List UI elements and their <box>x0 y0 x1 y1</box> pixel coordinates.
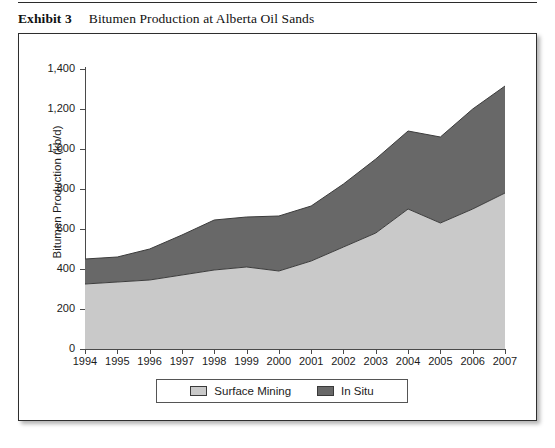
y-tick-label: 1,000 <box>27 143 75 154</box>
x-tick-mark <box>505 350 506 354</box>
stacked-area-chart <box>85 69 505 349</box>
exhibit-title: Bitumen Production at Alberta Oil Sands <box>89 11 315 27</box>
y-tick-label: 200 <box>27 303 75 314</box>
y-tick-label: 1,400 <box>27 63 75 74</box>
x-tick-mark <box>247 350 248 354</box>
x-tick-mark <box>408 350 409 354</box>
y-tick-label: 400 <box>27 263 75 274</box>
legend-swatch-surface-mining <box>190 386 207 396</box>
legend-item-in-situ: In Situ <box>317 385 374 397</box>
exhibit-figure: Exhibit 3 Bitumen Production at Alberta … <box>0 0 555 448</box>
y-tick-label: 800 <box>27 183 75 194</box>
legend-label-in-situ: In Situ <box>341 385 374 397</box>
x-tick-label: 2007 <box>485 355 525 367</box>
caption-top-rule <box>18 2 537 3</box>
chart-legend: Surface Mining In Situ <box>156 379 408 403</box>
y-tick-label: 600 <box>27 223 75 234</box>
x-tick-mark <box>117 350 118 354</box>
plot-area <box>85 69 505 349</box>
x-tick-mark <box>85 350 86 354</box>
exhibit-caption: Exhibit 3 Bitumen Production at Alberta … <box>18 8 537 30</box>
y-tick-label: 0 <box>27 343 75 354</box>
x-tick-mark <box>343 350 344 354</box>
x-tick-mark <box>150 350 151 354</box>
legend-label-surface-mining: Surface Mining <box>214 385 291 397</box>
x-axis-line <box>85 349 506 350</box>
y-tick-label: 1,200 <box>27 103 75 114</box>
x-tick-mark <box>376 350 377 354</box>
chart-frame: Bitumen Production (kb/d) 02004006008001… <box>18 33 537 421</box>
x-tick-mark <box>311 350 312 354</box>
x-tick-mark <box>214 350 215 354</box>
x-tick-mark <box>182 350 183 354</box>
x-tick-mark <box>279 350 280 354</box>
legend-item-surface-mining: Surface Mining <box>190 385 291 397</box>
x-tick-mark <box>440 350 441 354</box>
legend-swatch-in-situ <box>317 386 334 396</box>
x-tick-mark <box>473 350 474 354</box>
exhibit-label: Exhibit 3 <box>18 11 72 27</box>
